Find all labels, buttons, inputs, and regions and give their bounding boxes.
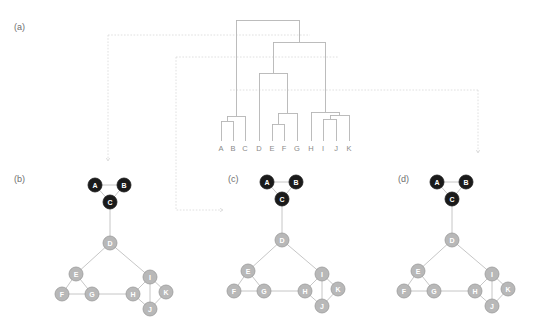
network-node-H[interactable]: H [468, 284, 482, 298]
network-node-label-A: A [92, 182, 97, 189]
network-node-label-C: C [449, 196, 454, 203]
panel-label-c: (c) [228, 174, 239, 184]
network-node-label-F: F [60, 291, 65, 298]
panel-label-a: (a) [14, 22, 25, 32]
network-node-label-H: H [130, 291, 135, 298]
dendrogram-leaf-label-E: E [269, 144, 274, 153]
network-node-E[interactable]: E [411, 264, 425, 278]
network-node-B[interactable]: B [289, 175, 303, 189]
network-node-H[interactable]: H [298, 284, 312, 298]
network-node-A[interactable]: A [430, 175, 444, 189]
network-node-J[interactable]: J [143, 302, 157, 316]
network-node-C[interactable]: C [275, 192, 289, 206]
network-node-label-F: F [232, 288, 237, 295]
network-node-label-K: K [505, 286, 510, 293]
network-node-B[interactable]: B [117, 178, 131, 192]
network-node-label-E: E [74, 271, 79, 278]
network-node-label-B: B [121, 182, 126, 189]
network-node-label-K: K [163, 289, 168, 296]
figure-canvas: (a) (b) (c) (d) ABCDEFGHIJK ABCDEFGHIJK … [0, 0, 537, 327]
dendrogram-leaf-label-K: K [346, 144, 351, 153]
panel-label-d: (d) [398, 174, 409, 184]
network-node-label-H: H [302, 288, 307, 295]
network-node-C[interactable]: C [445, 192, 459, 206]
dendrogram-leaf-label-A: A [218, 144, 223, 153]
network-node-I[interactable]: I [143, 270, 157, 284]
network-node-B[interactable]: B [459, 175, 473, 189]
network-node-E[interactable]: E [241, 264, 255, 278]
network-node-label-D: D [107, 240, 112, 247]
network-node-label-E: E [246, 268, 251, 275]
network-node-G[interactable]: G [427, 284, 441, 298]
dendrogram-leaf-label-J: J [334, 144, 338, 153]
network-node-label-C: C [279, 196, 284, 203]
network-node-K[interactable]: K [331, 282, 345, 296]
panel-label-b: (b) [14, 174, 25, 184]
network-node-label-B: B [463, 179, 468, 186]
dendrogram-leaf-label-B: B [230, 144, 235, 153]
network-node-E[interactable]: E [69, 267, 83, 281]
dendrogram-leaf-label-I: I [322, 144, 324, 153]
network-node-C[interactable]: C [103, 195, 117, 209]
network-node-H[interactable]: H [126, 287, 140, 301]
network-node-D[interactable]: D [445, 233, 459, 247]
network-node-D[interactable]: D [275, 233, 289, 247]
network-node-D[interactable]: D [103, 236, 117, 250]
network-node-label-H: H [472, 288, 477, 295]
network-node-label-J: J [148, 306, 152, 313]
network-node-label-A: A [434, 179, 439, 186]
network-node-K[interactable]: K [501, 282, 515, 296]
dendrogram-leaf-label-D: D [256, 144, 262, 153]
network-node-label-G: G [431, 288, 437, 295]
network-node-label-K: K [335, 286, 340, 293]
network-node-A[interactable]: A [260, 175, 274, 189]
network-node-label-G: G [261, 288, 267, 295]
network-node-label-I: I [321, 271, 323, 278]
network-node-label-G: G [89, 291, 95, 298]
network-node-G[interactable]: G [257, 284, 271, 298]
network-node-label-C: C [107, 199, 112, 206]
network-node-label-B: B [293, 179, 298, 186]
network-node-label-E: E [416, 268, 421, 275]
dendrogram-leaf-label-F: F [282, 144, 287, 153]
network-node-label-I: I [149, 274, 151, 281]
network-node-label-D: D [449, 237, 454, 244]
dendrogram-leaf-label-C: C [242, 144, 248, 153]
network-node-label-J: J [490, 303, 494, 310]
network-node-F[interactable]: F [227, 284, 241, 298]
network-node-label-D: D [279, 237, 284, 244]
dendrogram-leaf-label-H: H [308, 144, 313, 153]
network-node-I[interactable]: I [315, 267, 329, 281]
network-node-I[interactable]: I [485, 267, 499, 281]
network-node-G[interactable]: G [85, 287, 99, 301]
network-node-label-A: A [264, 179, 269, 186]
network-node-label-I: I [491, 271, 493, 278]
dendrogram-leaf-label-G: G [294, 144, 300, 153]
network-node-label-F: F [402, 288, 407, 295]
network-node-F[interactable]: F [55, 287, 69, 301]
network-node-J[interactable]: J [485, 299, 499, 313]
network-node-J[interactable]: J [315, 299, 329, 313]
network-node-F[interactable]: F [397, 284, 411, 298]
network-node-label-J: J [320, 303, 324, 310]
network-node-A[interactable]: A [88, 178, 102, 192]
network-node-K[interactable]: K [159, 285, 173, 299]
